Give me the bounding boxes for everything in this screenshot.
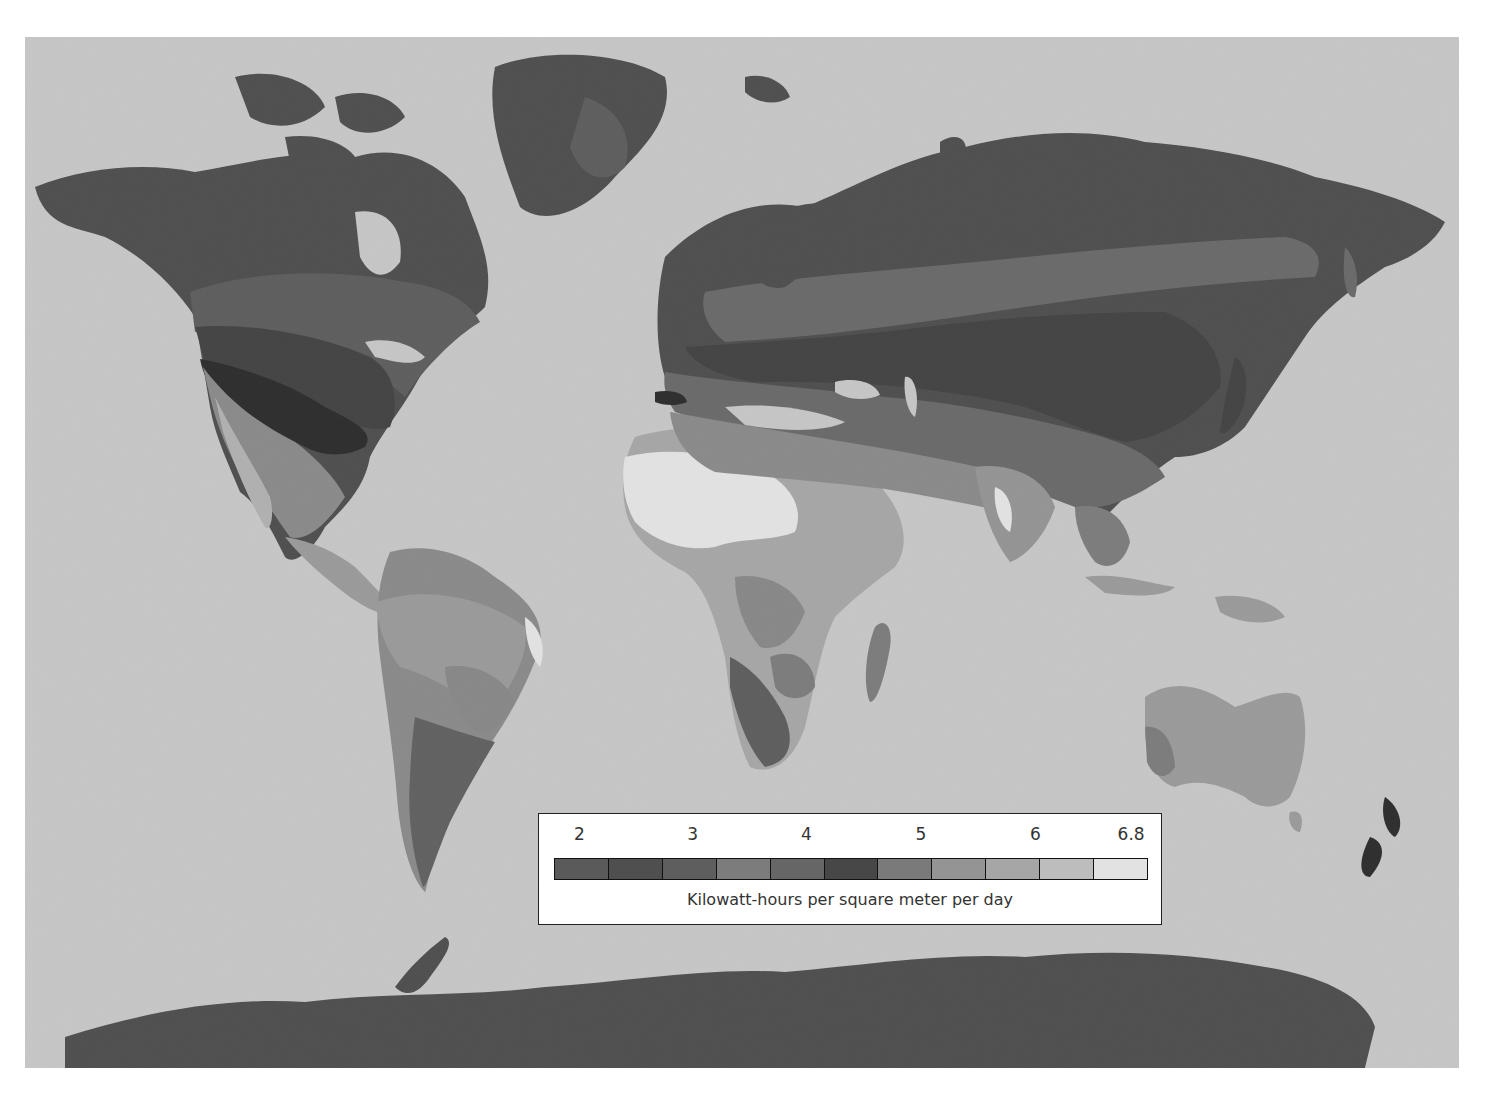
legend-swatch: [1094, 859, 1147, 879]
map-legend: 2 3 4 5 6 6.8 Kilowatt-hours per square …: [538, 813, 1162, 925]
legend-tick-label: 6: [1030, 824, 1041, 844]
legend-swatch: [663, 859, 717, 879]
legend-unit-label: Kilowatt-hours per square meter per day: [539, 890, 1161, 909]
legend-tick-label: 6.8: [1118, 824, 1145, 844]
legend-swatch: [932, 859, 986, 879]
legend-tick-label: 3: [687, 824, 698, 844]
legend-swatch: [555, 859, 609, 879]
legend-swatch: [1040, 859, 1094, 879]
legend-color-bar: [554, 858, 1148, 880]
legend-swatch: [717, 859, 771, 879]
legend-tick-label: 5: [915, 824, 926, 844]
legend-tick-label: 2: [574, 824, 585, 844]
legend-swatch: [878, 859, 932, 879]
legend-tick-label: 4: [801, 824, 812, 844]
legend-scale-ticks: 2 3 4 5 6 6.8: [539, 824, 1161, 850]
legend-swatch: [825, 859, 879, 879]
legend-swatch: [609, 859, 663, 879]
legend-swatch: [986, 859, 1040, 879]
legend-swatch: [771, 859, 825, 879]
